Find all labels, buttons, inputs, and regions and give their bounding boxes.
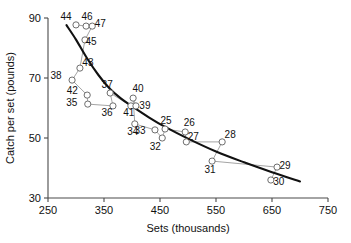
data-point-label: 41 (123, 107, 135, 118)
x-tick-label: 450 (151, 204, 169, 216)
x-tick-label: 550 (207, 204, 225, 216)
x-tick-label: 650 (263, 204, 281, 216)
data-point-label: 36 (101, 107, 113, 118)
x-tick-label: 750 (319, 204, 337, 216)
data-point-label: 32 (150, 141, 162, 152)
y-axis-title: Catch per set (pounds) (4, 52, 16, 164)
data-point-label: 30 (273, 176, 285, 187)
data-point-label: 27 (188, 131, 200, 142)
data-point-marker (152, 127, 158, 133)
x-axis-title: Sets (thousands) (146, 222, 229, 234)
data-point-label: 39 (139, 100, 151, 111)
y-tick-label: 30 (29, 192, 41, 204)
data-point-label: 31 (205, 164, 217, 175)
y-tick-label: 70 (29, 72, 41, 84)
plot-canvas: 25035045055065075030507090 4446474543384… (0, 0, 351, 243)
data-point-label: 33 (134, 125, 146, 136)
data-point-marker (83, 23, 89, 29)
data-points (69, 22, 280, 183)
y-tick-label: 50 (29, 132, 41, 144)
data-point-label: 29 (279, 160, 291, 171)
data-point-label: 25 (160, 115, 172, 126)
data-point-label: 35 (66, 97, 78, 108)
data-point-label: 45 (85, 36, 97, 47)
data-point-label: 43 (82, 57, 94, 68)
data-point-label: 28 (225, 129, 237, 140)
data-point-label: 40 (133, 83, 145, 94)
data-point-label: 38 (51, 70, 63, 81)
data-point-marker (73, 22, 79, 28)
fitted-trend-curve (66, 25, 300, 181)
connection-polyline (72, 25, 277, 180)
fitted-curve (66, 25, 300, 181)
data-point-label: 46 (82, 11, 94, 22)
x-tick-label: 250 (39, 204, 57, 216)
x-tick-label: 350 (95, 204, 113, 216)
series-connector (72, 25, 277, 180)
axes: 25035045055065075030507090 (29, 12, 337, 216)
data-point-label: 47 (95, 18, 107, 29)
data-point-marker (107, 90, 113, 96)
scatter-chart-figure: 25035045055065075030507090 4446474543384… (0, 0, 351, 243)
y-tick-label: 90 (29, 12, 41, 24)
data-point-label: 37 (102, 79, 114, 90)
data-point-marker (84, 92, 90, 98)
data-point-label: 44 (60, 11, 72, 22)
data-point-label: 26 (184, 117, 196, 128)
data-point-label: 42 (67, 85, 79, 96)
data-point-marker (162, 126, 168, 132)
data-point-marker (130, 95, 136, 101)
data-point-marker (85, 101, 91, 107)
data-point-marker (69, 77, 75, 83)
point-labels: 4446474543384235373640413934332532262728… (51, 11, 292, 187)
